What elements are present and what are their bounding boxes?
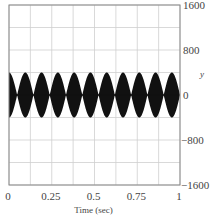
y-tick-label: 0 <box>183 89 189 101</box>
y-tick-label: −800 <box>181 134 204 146</box>
beat-signal-chart: 16008000−800−1600 00.250.50.751 y Time (… <box>0 0 220 220</box>
y-axis-tick-labels: 16008000−800−1600 <box>181 0 210 191</box>
y-tick-label: −1600 <box>181 179 210 191</box>
x-tick-label: 0.75 <box>127 190 147 202</box>
x-tick-label: 1 <box>176 190 182 202</box>
x-tick-label: 0 <box>5 190 11 202</box>
y-tick-label: 800 <box>183 44 200 56</box>
x-tick-label: 0.25 <box>41 190 61 202</box>
waveform-series <box>9 73 180 118</box>
y-tick-label: 1600 <box>183 0 206 11</box>
y-axis-label: y <box>199 69 204 79</box>
x-axis-tick-labels: 00.250.50.751 <box>5 190 182 202</box>
x-axis-label: Time (sec) <box>74 205 112 215</box>
x-tick-label: 0.5 <box>87 190 101 202</box>
